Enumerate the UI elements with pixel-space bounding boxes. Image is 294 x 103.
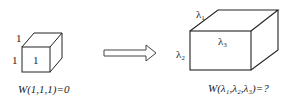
- arrow-right-icon: [104, 45, 156, 61]
- unit-cube: [22, 33, 62, 72]
- box-side-face: [251, 10, 278, 70]
- box-depth-label: λ₁: [196, 9, 205, 20]
- cube-height-label: 1: [12, 55, 18, 66]
- cube-face-label: 1: [33, 55, 39, 66]
- left-caption: W(1,1,1)=0: [18, 84, 69, 95]
- transform-arrow: [104, 45, 156, 61]
- cube-top-face: [22, 33, 62, 47]
- cube-depth-label: 1: [16, 33, 22, 44]
- box-face-label: λ₃: [218, 36, 227, 47]
- box-height-label: λ₂: [176, 49, 185, 60]
- right-caption: W(λ₁,λ₂,λ₃)=?: [208, 83, 269, 94]
- cube-side-face: [50, 33, 62, 72]
